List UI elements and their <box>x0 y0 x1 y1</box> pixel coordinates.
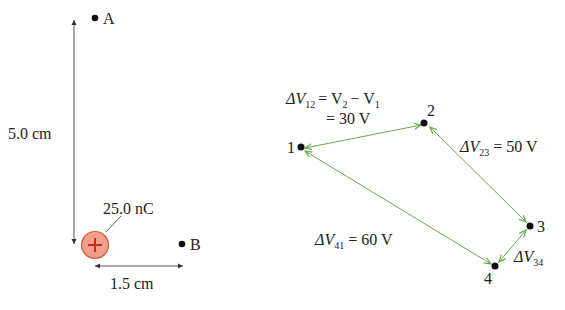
positive-charge <box>82 232 109 259</box>
dv12-label: ΔV12= V2− V1 = 30 V <box>285 90 380 127</box>
svg-text:ΔV12= V2− V1: ΔV12= V2− V1 <box>285 90 380 110</box>
svg-text:ΔV34: ΔV34 <box>513 248 543 268</box>
dv34-label: ΔV34 <box>513 248 543 268</box>
charge-label: 25.0 nC <box>103 200 154 217</box>
svg-text:= 30 V: = 30 V <box>326 110 371 127</box>
vertical-distance-label: 5.0 cm <box>8 125 52 142</box>
right-diagram: 1 2 3 4 ΔV12= V2− V1 = 30 V ΔV23= 50 V Δ… <box>285 90 545 287</box>
point-b-dot <box>179 241 186 248</box>
charge-leader-line <box>106 216 121 232</box>
arrow-1-2 <box>305 125 421 148</box>
svg-text:ΔV41= 60 V: ΔV41= 60 V <box>314 231 393 251</box>
point-4-dot <box>492 263 499 270</box>
point-2-label: 2 <box>427 102 435 119</box>
point-1-label: 1 <box>287 139 295 156</box>
dv23-label: ΔV23= 50 V <box>459 138 538 158</box>
point-a-dot <box>92 15 99 22</box>
point-3-dot <box>527 223 534 230</box>
point-3-label: 3 <box>537 218 545 235</box>
point-a-label: A <box>103 10 115 27</box>
point-1-dot <box>298 144 305 151</box>
horizontal-distance-label: 1.5 cm <box>110 275 154 292</box>
point-4-label: 4 <box>484 270 492 287</box>
point-2-dot <box>421 120 428 127</box>
svg-text:ΔV23= 50 V: ΔV23= 50 V <box>459 138 538 158</box>
left-diagram: 5.0 cm A B 25.0 nC 1.5 cm <box>8 10 201 292</box>
dv41-label: ΔV41= 60 V <box>314 231 393 251</box>
point-b-label: B <box>190 236 201 253</box>
diagram-canvas: 5.0 cm A B 25.0 nC 1.5 cm 1 2 3 4 <box>0 0 565 310</box>
